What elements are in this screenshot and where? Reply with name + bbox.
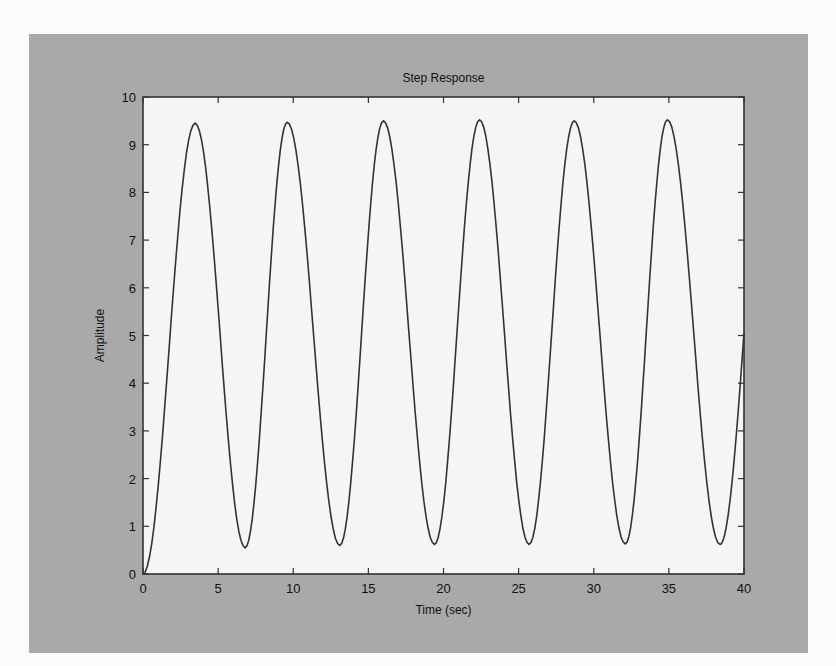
x-axis-label: Time (sec)	[415, 603, 471, 617]
y-tick-label: 0	[129, 567, 136, 582]
y-tick-label: 5	[129, 329, 136, 344]
y-tick-label: 8	[129, 185, 136, 200]
y-axis-label: Amplitude	[93, 309, 107, 363]
x-tick-label: 20	[436, 581, 450, 596]
x-tick-label: 25	[511, 581, 525, 596]
y-tick-label: 3	[129, 424, 136, 439]
y-tick-label: 10	[122, 90, 136, 105]
y-tick-label: 1	[129, 519, 136, 534]
y-tick-label: 4	[129, 376, 136, 391]
x-tick-label: 40	[737, 581, 751, 596]
x-tick-label: 0	[139, 581, 146, 596]
y-tick-label: 9	[129, 138, 136, 153]
x-tick-label: 10	[286, 581, 300, 596]
x-tick-label: 5	[215, 581, 222, 596]
y-tick-label: 6	[129, 281, 136, 296]
x-tick-label: 15	[361, 581, 375, 596]
chart-title: Step Response	[402, 71, 484, 85]
x-tick-label: 35	[662, 581, 676, 596]
y-tick-label: 7	[129, 233, 136, 248]
step-response-chart: 0510152025303540012345678910 Step Respon…	[0, 0, 836, 666]
y-tick-label: 2	[129, 472, 136, 487]
x-tick-label: 30	[587, 581, 601, 596]
